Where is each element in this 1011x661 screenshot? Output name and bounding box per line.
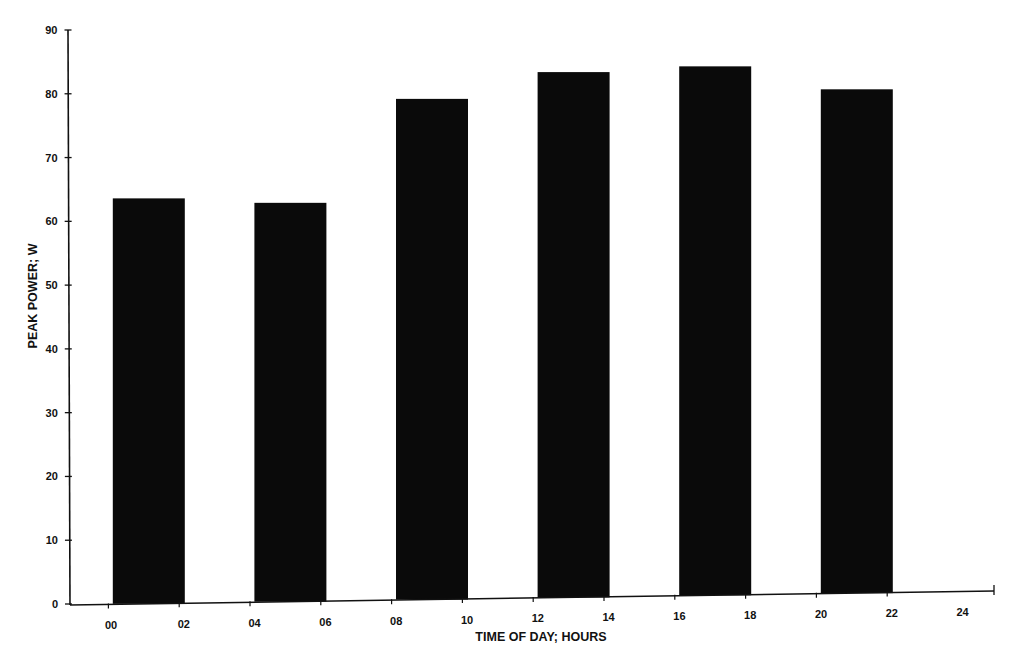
bars: [113, 66, 893, 603]
y-axis: 0102030405060708090: [45, 24, 72, 610]
bar-18: [679, 66, 751, 595]
y-tick-label: 30: [46, 407, 58, 419]
x-axis-title: TIME OF DAY; HOURS: [475, 630, 606, 644]
y-tick-label: 0: [52, 598, 58, 610]
y-tick-label: 50: [45, 279, 57, 291]
x-tick-label: 18: [744, 609, 756, 621]
y-tick-label: 80: [45, 88, 57, 100]
y-tick-label: 60: [45, 215, 57, 227]
x-tick-label: 20: [815, 608, 827, 620]
x-tick-label: 00: [105, 619, 117, 631]
y-axis-title: PEAK POWER; W: [26, 243, 40, 348]
x-tick-label: 08: [390, 615, 402, 627]
x-tick-label: 22: [886, 607, 898, 619]
x-tick-label: 16: [673, 610, 685, 622]
x-tick-label: 14: [602, 611, 615, 623]
y-tick-label: 20: [46, 470, 58, 482]
bar-22: [821, 89, 893, 593]
y-tick-label: 40: [46, 343, 58, 355]
x-tick-label: 12: [532, 612, 544, 624]
bar-10: [396, 99, 468, 600]
bar-02: [113, 198, 185, 603]
bar-14: [538, 72, 610, 597]
bar-chart: 0102030405060708090 00020406081012141618…: [0, 0, 1011, 661]
y-tick-label: 10: [46, 534, 58, 546]
x-tick-label: 04: [248, 617, 261, 629]
x-tick-label: 24: [956, 606, 969, 618]
x-tick-label: 02: [178, 618, 190, 630]
x-tick-label: 06: [319, 616, 331, 628]
y-tick-label: 90: [45, 24, 57, 36]
bar-06: [254, 203, 326, 602]
y-tick-label: 70: [45, 152, 57, 164]
x-tick-label: 10: [461, 614, 473, 626]
